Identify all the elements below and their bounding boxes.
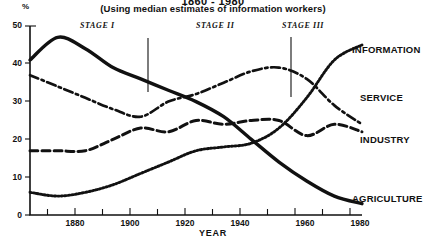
series-line-service xyxy=(30,67,362,124)
chart-root: 1860 - 1980 (Using median estimates of i… xyxy=(0,0,426,248)
x-axis-ticks xyxy=(48,208,351,215)
series-line-industry xyxy=(30,119,362,151)
series-group xyxy=(30,37,362,204)
chart-plot-area xyxy=(0,0,426,248)
stage-divider-lines xyxy=(148,37,291,97)
